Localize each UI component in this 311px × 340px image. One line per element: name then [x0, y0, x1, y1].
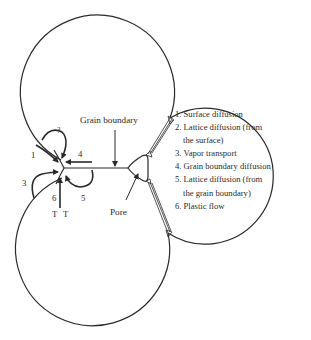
- legend-text: 4. Grain boundary diffusion: [175, 161, 271, 171]
- lower-grain-contact: [146, 179, 172, 237]
- mechanism-legend: 1. Surface diffusion 2. Lattice diffusio…: [175, 108, 300, 213]
- pore-pointer: [126, 174, 138, 200]
- mechanism-5-label: 5: [81, 193, 86, 203]
- legend-text: 2. Lattice diffusion (from: [175, 122, 262, 132]
- legend-item-6: 6. Plastic flow: [175, 200, 300, 213]
- arrow-mechanism-5: [66, 170, 93, 187]
- legend-text: the surface): [183, 135, 223, 145]
- mechanism-3-label: 3: [22, 178, 27, 188]
- bottom-grain: [16, 178, 170, 326]
- mechanism-1-label: 1: [31, 150, 35, 160]
- legend-item-2: 2. Lattice diffusion (from: [175, 121, 300, 134]
- legend-item-5: 5. Lattice diffusion (from: [175, 173, 300, 186]
- legend-text: 1. Surface diffusion: [175, 109, 243, 119]
- legend-item-4: 4. Grain boundary diffusion: [175, 160, 300, 173]
- upper-grain-contact: [146, 116, 174, 157]
- legend-text: the grain boundary): [183, 188, 251, 198]
- grain-boundary-label: Grain boundary: [80, 115, 138, 125]
- mechanism-6-label: 6: [52, 193, 57, 203]
- legend-text: 5. Lattice diffusion (from: [175, 174, 262, 184]
- t-label-right: T: [63, 209, 69, 219]
- mechanism-4-label: 4: [78, 149, 83, 159]
- arrow-mechanism-1: [36, 145, 58, 162]
- legend-item-3: 3. Vapor transport: [175, 147, 300, 160]
- pore-label: Pore: [110, 207, 127, 217]
- pore-shape: [128, 155, 148, 181]
- legend-text: 3. Vapor transport: [175, 148, 237, 158]
- legend-text: 6. Plastic flow: [175, 201, 224, 211]
- legend-item-1: 1. Surface diffusion: [175, 108, 300, 121]
- t-label-left: T: [52, 209, 58, 219]
- legend-item-5-cont: the grain boundary): [175, 187, 300, 200]
- legend-item-2-cont: the surface): [175, 134, 300, 147]
- arrow-mechanism-2: [42, 130, 66, 158]
